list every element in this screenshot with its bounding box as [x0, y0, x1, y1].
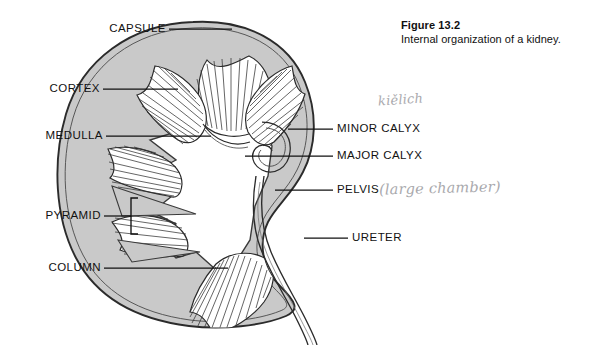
- figure-number: Figure 13.2: [401, 18, 601, 32]
- label-capsule: CAPSULE: [28, 22, 166, 34]
- handwritten-note-large-chamber: (large chamber): [379, 178, 501, 197]
- handwritten-note-kielich: kiělich: [378, 90, 424, 108]
- label-ureter: URETER: [352, 231, 402, 243]
- label-pyramid: PYRAMID: [8, 209, 101, 221]
- label-major-calyx: MAJOR CALYX: [337, 149, 422, 161]
- label-pelvis: PELVIS: [337, 183, 379, 195]
- label-cortex: CORTEX: [10, 82, 100, 94]
- kidney-diagram-artwork: [0, 0, 607, 345]
- figure-caption-text: Internal organization of a kidney.: [401, 32, 601, 46]
- figure-caption: Figure 13.2 Internal organization of a k…: [401, 18, 601, 46]
- figure-root: Figure 13.2 Internal organization of a k…: [0, 0, 607, 345]
- label-column: COLUMN: [12, 261, 101, 273]
- label-minor-calyx: MINOR CALYX: [337, 122, 420, 134]
- label-medulla: MEDULLA: [6, 129, 103, 141]
